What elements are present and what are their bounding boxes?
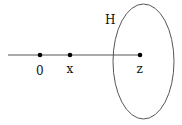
point-x xyxy=(68,53,73,58)
point-origin xyxy=(38,53,43,58)
label-x: x xyxy=(67,62,74,76)
label-set-h: H xyxy=(105,13,115,27)
label-origin: 0 xyxy=(36,64,44,78)
set-h-ellipse xyxy=(113,4,174,119)
label-z: z xyxy=(137,62,143,76)
diagram-canvas: 0 x z H xyxy=(0,0,182,125)
point-z xyxy=(138,53,143,58)
